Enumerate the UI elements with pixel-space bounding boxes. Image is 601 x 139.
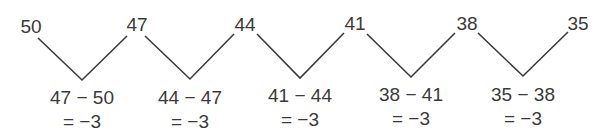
connector-lines [38,32,568,80]
sequence-difference-diagram: 50 47 44 41 38 35 47 − 50 = −3 44 − 47 =… [0,0,601,139]
term-4: 41 [344,13,365,34]
connector-2 [145,34,234,79]
difference-result-2: = −3 [171,111,209,132]
connector-3 [257,33,344,78]
difference-result-1: = −3 [63,111,101,132]
difference-expr-3: 41 − 44 [268,85,332,106]
sequence-terms: 50 47 44 41 38 35 [20,13,588,37]
term-2: 47 [126,14,147,35]
term-6: 35 [567,13,588,34]
difference-labels: 47 − 50 = −3 44 − 47 = −3 41 − 44 = −3 3… [50,84,555,132]
term-1: 50 [20,16,41,37]
difference-result-5: = −3 [504,108,542,129]
difference-expr-2: 44 − 47 [158,87,222,108]
difference-expr-5: 35 − 38 [491,84,555,105]
difference-expr-4: 38 − 41 [379,84,443,105]
connector-5 [478,32,568,76]
term-3: 44 [234,14,256,35]
difference-expr-1: 47 − 50 [50,87,114,108]
connector-1 [38,36,127,80]
term-5: 38 [456,13,477,34]
difference-result-4: = −3 [392,108,430,129]
difference-result-3: = −3 [281,109,319,130]
connector-4 [367,33,455,77]
